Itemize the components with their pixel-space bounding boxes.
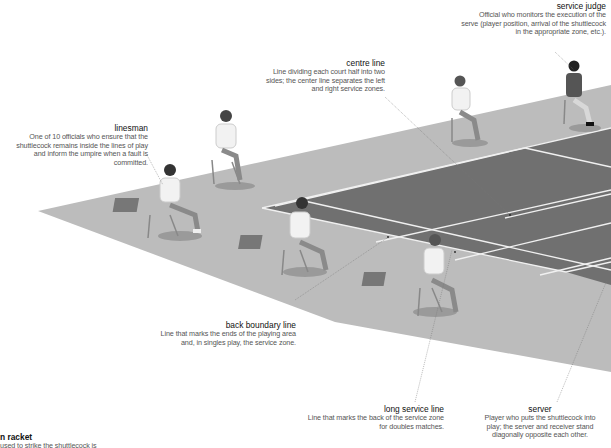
desc-back-boundary-line: Line that marks the ends of the playing …: [161, 329, 296, 347]
label-service-judge: service judge Official who monitors the …: [460, 1, 606, 37]
label-server: server Player who puts the shuttlecock i…: [478, 404, 602, 440]
label-long-service-line: long service line Line that marks the ba…: [300, 404, 444, 431]
label-back-boundary-line: back boundary line Line that marks the e…: [150, 320, 296, 347]
desc-racket: used to strike the shuttlecock is: [0, 441, 97, 448]
label-racket: n racket used to strike the shuttlecock …: [0, 432, 120, 448]
desc-long-service-line: Line that marks the back of the service …: [308, 413, 444, 431]
desc-service-judge: Official who monitors the execution of t…: [461, 10, 606, 36]
desc-linesman: One of 10 officials who ensure that the …: [16, 132, 148, 167]
label-linesman: linesman One of 10 officials who ensure …: [8, 123, 148, 167]
desc-centre-line: Line dividing each court half into two s…: [266, 67, 385, 93]
desc-server: Player who puts the shuttlecock into pla…: [484, 413, 595, 439]
label-centre-line: centre line Line dividing each court hal…: [253, 58, 385, 94]
